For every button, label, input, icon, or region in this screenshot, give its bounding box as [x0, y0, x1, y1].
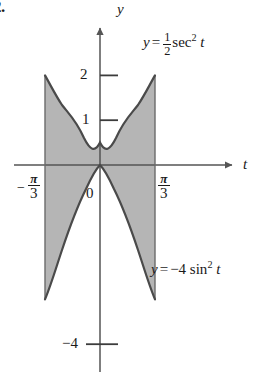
pi-symbol-left: π — [28, 172, 40, 185]
denominator-right: 3 — [158, 185, 170, 201]
figure-container: 2. — [0, 0, 272, 382]
equation-lower-curve: y=−4 sin2 t — [151, 262, 220, 277]
equation-upper-equals: = — [150, 34, 162, 50]
t-axis-label: t — [243, 157, 247, 172]
y-tick-label-2: 2 — [80, 67, 88, 82]
pi-symbol-right: π — [158, 172, 170, 185]
equation-upper-coefficient: 12 — [163, 31, 171, 57]
denominator-left: 3 — [28, 185, 40, 201]
x-tick-label-pi-over-3: π 3 — [158, 172, 170, 201]
equation-lower-variable: t — [216, 261, 220, 277]
equation-lower-equals: = — [158, 261, 170, 277]
equation-lower-lhs: y — [151, 261, 158, 277]
equation-upper-variable: t — [200, 34, 204, 50]
equation-lower-coefficient: 4 — [179, 261, 187, 277]
equation-upper-curve: y=12sec2 t — [143, 31, 204, 57]
x-tick-minus-sign-left: − — [17, 180, 25, 196]
equation-upper-function: sec — [172, 34, 191, 50]
y-axis-label: y — [117, 2, 124, 17]
equation-lower-sign: − — [170, 261, 178, 277]
equation-upper-exponent: 2 — [191, 32, 196, 43]
equation-lower-exponent: 2 — [207, 259, 212, 270]
equation-upper-coeff-numerator: 1 — [163, 31, 171, 44]
y-tick-label-1: 1 — [82, 112, 90, 127]
equation-upper-coeff-denominator: 2 — [163, 44, 171, 58]
origin-label: 0 — [86, 186, 94, 201]
equation-upper-lhs: y — [143, 34, 150, 50]
y-tick-label-minus-4: −4 — [62, 336, 78, 351]
equation-lower-function: sin — [190, 261, 208, 277]
graph-plot — [0, 0, 272, 382]
x-tick-label-minus-pi-over-3: π 3 — [28, 172, 40, 201]
